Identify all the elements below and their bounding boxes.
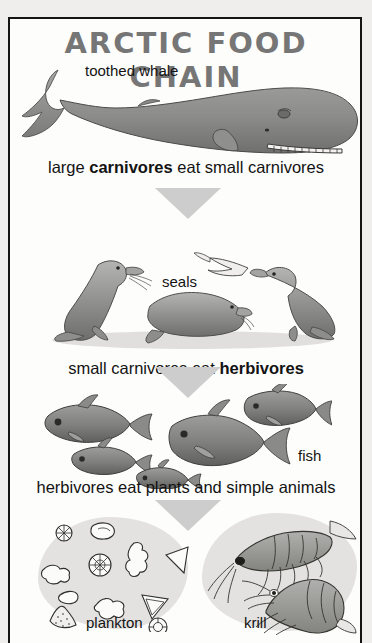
label-krill: krill [244, 614, 267, 631]
caption-text-pre: herbivores eat plants and simple animals [37, 478, 336, 496]
fish-illustration [32, 384, 332, 489]
caption-text-bold: herbivores [219, 359, 303, 377]
label-plankton: plankton [86, 614, 143, 631]
arrow-whale-to-seals [155, 188, 221, 219]
caption-large-carnivores: large carnivores eat small carnivores [10, 158, 362, 177]
caption-text-post: eat small carnivores [173, 158, 324, 176]
caption-herbivores: herbivores eat plants and simple animals [10, 478, 362, 497]
label-toothed-whale: toothed whale [85, 62, 178, 79]
seal-illustration [52, 244, 337, 349]
caption-text-pre: large [48, 158, 89, 176]
label-seals: seals [162, 273, 197, 290]
krill-illustration [206, 515, 358, 635]
food-chain-poster: ARCTIC FOOD CHAIN [8, 17, 362, 643]
caption-text-bold: carnivores [89, 158, 172, 176]
label-fish: fish [298, 447, 321, 464]
whale-illustration [20, 56, 362, 156]
